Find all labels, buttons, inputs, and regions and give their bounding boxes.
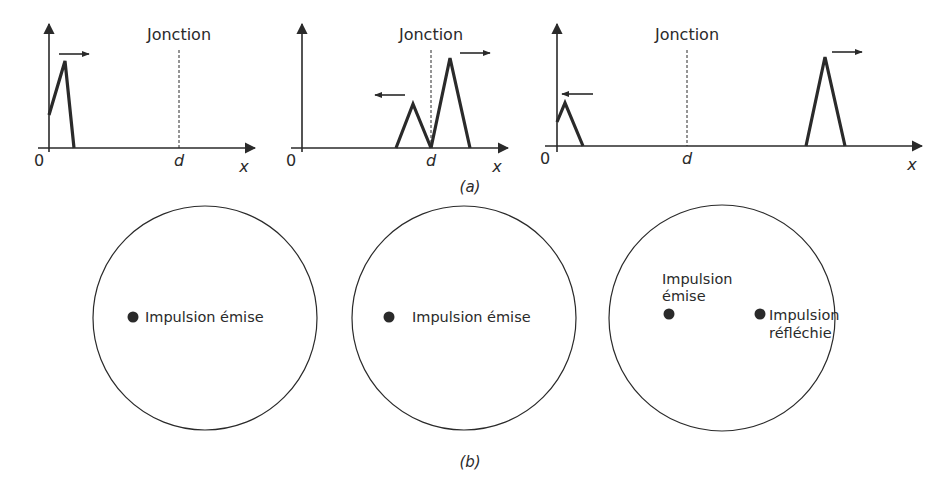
- transmitted-pulse: [431, 58, 470, 148]
- incident-pulse: [49, 61, 74, 148]
- panel-a1: Jonction 0 d x: [34, 24, 255, 176]
- reflected-pulse: [557, 103, 583, 146]
- reflected-label-line1: Impulsion: [769, 307, 839, 323]
- emitted-pulse-dot-icon: [664, 309, 675, 320]
- junction-label: Jonction: [654, 25, 719, 44]
- junction-label: Jonction: [398, 25, 463, 44]
- x-label: x: [238, 157, 249, 176]
- dot-label: Impulsion émise: [145, 309, 264, 325]
- emitted-label-line2: émise: [662, 288, 706, 304]
- origin-label: 0: [34, 151, 44, 170]
- origin-label: 0: [286, 151, 296, 170]
- d-label: d: [426, 151, 437, 170]
- panel-a3: Jonction 0 d x: [540, 24, 922, 174]
- panel-b1: Impulsion émise: [93, 206, 317, 430]
- d-label: d: [682, 149, 693, 168]
- reflected-label-line2: réfléchie: [769, 325, 832, 341]
- caption-b: (b): [459, 453, 480, 471]
- panel-a2: Jonction 0 d x: [286, 24, 508, 176]
- panel-b2: Impulsion émise: [352, 206, 576, 430]
- reflected-pulse-dot-icon: [755, 309, 766, 320]
- junction-label: Jonction: [146, 25, 211, 44]
- pulse-dot-icon: [384, 312, 395, 323]
- reflected-pulse: [396, 104, 431, 148]
- pulse-dot-icon: [128, 312, 139, 323]
- transmitted-pulse: [806, 57, 845, 146]
- panel-b3: Impulsion émise Impulsion réfléchie: [609, 205, 839, 431]
- origin-label: 0: [540, 149, 550, 168]
- d-label: d: [174, 151, 185, 170]
- caption-a: (a): [460, 178, 481, 196]
- dot-label: Impulsion émise: [412, 309, 531, 325]
- x-label: x: [491, 157, 502, 176]
- emitted-label-line1: Impulsion: [662, 271, 732, 287]
- figure-canvas: Jonction 0 d x Jonction 0 d x Jonction 0…: [0, 0, 945, 494]
- x-label: x: [906, 155, 917, 174]
